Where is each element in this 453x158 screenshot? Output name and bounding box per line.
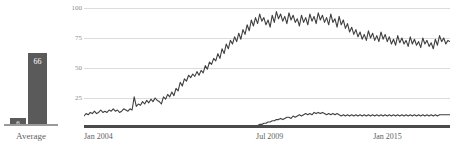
average-plot-area: 6 66 <box>4 38 58 126</box>
y-axis-tick-labels: 100755025 <box>62 8 82 128</box>
series-lines <box>84 8 450 128</box>
line-plot-area <box>84 8 450 128</box>
y-tick-label-100: 100 <box>62 5 82 12</box>
x-tick-label-0: Jan 2004 <box>84 132 113 141</box>
line-chart-panel: 100755025 Jan 2004Jul 2009Jan 2015 <box>62 0 453 158</box>
y-tick-label-50: 50 <box>62 65 82 72</box>
average-bar-panel: 6 66 Average <box>0 0 62 158</box>
x-axis-baseline <box>84 125 450 128</box>
x-tick-label-1: Jul 2009 <box>256 132 283 141</box>
y-tick-label-25: 25 <box>62 95 82 102</box>
average-axis-label: Average <box>0 131 62 141</box>
average-baseline <box>4 124 58 126</box>
chart-figure: 6 66 Average 100755025 Jan 2004Jul 2009J… <box>0 0 453 158</box>
average-bar-high: 66 <box>28 53 47 124</box>
y-tick-label-75: 75 <box>62 35 82 42</box>
series-line-upper <box>84 12 450 116</box>
average-bar-high-value: 66 <box>28 57 47 66</box>
x-tick-label-2: Jan 2015 <box>373 132 402 141</box>
